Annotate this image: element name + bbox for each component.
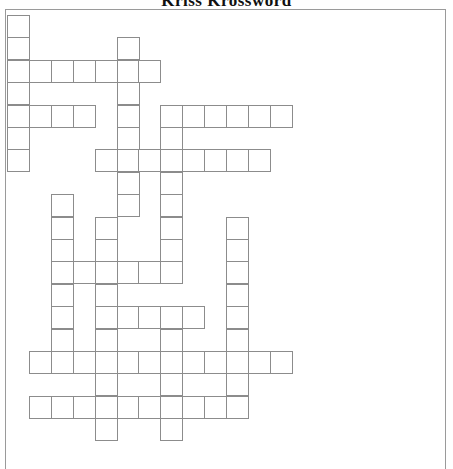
grid-cell[interactable] — [160, 127, 183, 150]
grid-cell[interactable] — [117, 37, 140, 60]
grid-cell[interactable] — [160, 261, 183, 284]
grid-cell[interactable] — [51, 284, 74, 307]
grid-cell[interactable] — [182, 396, 205, 419]
grid-cell[interactable] — [95, 217, 118, 240]
grid-cell[interactable] — [138, 396, 161, 419]
grid-cell[interactable] — [182, 105, 205, 128]
grid-cell[interactable] — [51, 217, 74, 240]
grid-cell[interactable] — [226, 284, 249, 307]
grid-cell[interactable] — [182, 149, 205, 172]
grid-cell[interactable] — [138, 60, 161, 83]
grid-cell[interactable] — [51, 194, 74, 217]
grid-cell[interactable] — [7, 15, 30, 38]
grid-cell[interactable] — [95, 418, 118, 441]
grid-cell[interactable] — [117, 82, 140, 105]
grid-cell[interactable] — [95, 149, 118, 172]
grid-cell[interactable] — [73, 105, 96, 128]
grid-cell[interactable] — [95, 239, 118, 262]
grid-cell[interactable] — [182, 351, 205, 374]
grid-cell[interactable] — [226, 261, 249, 284]
grid-cell[interactable] — [29, 105, 52, 128]
grid-cell[interactable] — [117, 261, 140, 284]
grid-cell[interactable] — [29, 396, 52, 419]
grid-cell[interactable] — [7, 105, 30, 128]
grid-cell[interactable] — [160, 373, 183, 396]
grid-cell[interactable] — [204, 396, 227, 419]
grid-cell[interactable] — [95, 284, 118, 307]
grid-cell[interactable] — [29, 60, 52, 83]
grid-cell[interactable] — [138, 351, 161, 374]
grid-cell[interactable] — [95, 373, 118, 396]
grid-cell[interactable] — [117, 105, 140, 128]
grid-cell[interactable] — [7, 37, 30, 60]
grid-cell[interactable] — [117, 194, 140, 217]
grid-cell[interactable] — [95, 261, 118, 284]
grid-cell[interactable] — [95, 60, 118, 83]
grid-cell[interactable] — [160, 396, 183, 419]
grid-cell[interactable] — [182, 306, 205, 329]
grid-cell[interactable] — [7, 82, 30, 105]
grid-cell[interactable] — [95, 329, 118, 352]
grid-cell[interactable] — [29, 351, 52, 374]
grid-cell[interactable] — [117, 127, 140, 150]
grid-cell[interactable] — [95, 306, 118, 329]
grid-cell[interactable] — [51, 306, 74, 329]
grid-cell[interactable] — [117, 306, 140, 329]
grid-cell[interactable] — [160, 217, 183, 240]
grid-cell[interactable] — [160, 239, 183, 262]
grid-cell[interactable] — [51, 239, 74, 262]
grid-cell[interactable] — [117, 172, 140, 195]
grid-cell[interactable] — [73, 396, 96, 419]
grid-cell[interactable] — [51, 396, 74, 419]
grid-cell[interactable] — [160, 149, 183, 172]
grid-cell[interactable] — [51, 261, 74, 284]
grid-cell[interactable] — [270, 105, 293, 128]
grid-cell[interactable] — [117, 396, 140, 419]
grid-cell[interactable] — [226, 329, 249, 352]
grid-cell[interactable] — [160, 172, 183, 195]
grid-cell[interactable] — [204, 149, 227, 172]
grid-cell[interactable] — [117, 149, 140, 172]
grid-cell[interactable] — [95, 396, 118, 419]
grid-cell[interactable] — [204, 351, 227, 374]
grid-cell[interactable] — [160, 351, 183, 374]
grid-cell[interactable] — [226, 396, 249, 419]
grid-cell[interactable] — [51, 60, 74, 83]
grid-cell[interactable] — [226, 306, 249, 329]
grid-cell[interactable] — [204, 105, 227, 128]
grid-cell[interactable] — [138, 306, 161, 329]
grid-cell[interactable] — [73, 60, 96, 83]
grid-cell[interactable] — [160, 105, 183, 128]
grid-cell[interactable] — [248, 351, 271, 374]
grid-cell[interactable] — [248, 105, 271, 128]
grid-cell[interactable] — [226, 217, 249, 240]
grid-cell[interactable] — [117, 351, 140, 374]
grid-cell[interactable] — [51, 329, 74, 352]
grid-cell[interactable] — [160, 329, 183, 352]
grid-cell[interactable] — [226, 239, 249, 262]
grid-cell[interactable] — [7, 149, 30, 172]
grid-cell[interactable] — [226, 373, 249, 396]
grid-cell[interactable] — [117, 60, 140, 83]
grid-cell[interactable] — [138, 149, 161, 172]
grid-cell[interactable] — [73, 261, 96, 284]
grid-cell[interactable] — [160, 194, 183, 217]
grid-cell[interactable] — [7, 60, 30, 83]
grid-cell[interactable] — [226, 149, 249, 172]
grid-cell[interactable] — [7, 127, 30, 150]
grid-cell[interactable] — [160, 418, 183, 441]
grid-cell[interactable] — [160, 306, 183, 329]
grid-cell[interactable] — [51, 105, 74, 128]
grid-cell[interactable] — [270, 351, 293, 374]
grid-cell[interactable] — [51, 351, 74, 374]
grid-cell[interactable] — [248, 149, 271, 172]
grid-cell[interactable] — [95, 351, 118, 374]
grid-cell[interactable] — [226, 105, 249, 128]
grid-cell[interactable] — [226, 351, 249, 374]
grid-cell[interactable] — [73, 351, 96, 374]
grid-cell[interactable] — [138, 261, 161, 284]
